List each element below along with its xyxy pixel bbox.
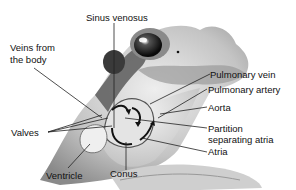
eye: [134, 33, 162, 57]
label-sinus-venosus: Sinus venosus: [86, 12, 148, 23]
label-conus: Conus: [110, 168, 137, 179]
frog-illustration: [0, 0, 296, 190]
label-aorta: Aorta: [208, 102, 231, 113]
label-pulmonary-vein: Pulmonary vein: [210, 69, 275, 80]
label-partition-line1: Partition: [208, 123, 243, 134]
label-valves: Valves: [11, 127, 39, 138]
label-veins-from-body-line1: Veins from: [10, 42, 55, 53]
label-pulmonary-artery: Pulmonary artery: [208, 84, 280, 95]
label-atria: Atria: [208, 146, 228, 157]
label-partition-line2: separating atria: [208, 134, 273, 145]
leader-veins-from-body: [34, 68, 102, 118]
label-ventricle: Ventricle: [46, 170, 82, 181]
label-veins-from-body-line2: the body: [10, 54, 46, 65]
